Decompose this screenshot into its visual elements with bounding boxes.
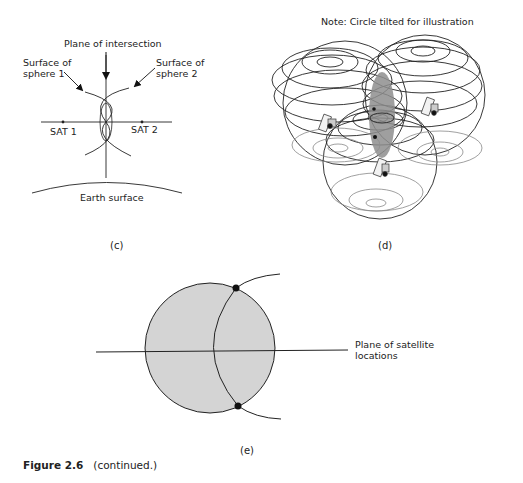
plane-of-satellite-locations-label: Plane of satellite locations: [355, 339, 434, 361]
figure-caption: Figure 2.6(continued.): [23, 459, 157, 471]
plane-label-line2: locations: [355, 350, 434, 361]
caption-text: (continued.): [93, 459, 157, 471]
plane-label-line1: Plane of satellite: [355, 339, 434, 350]
panel-e-drawing: [0, 0, 523, 483]
figure-number: Figure 2.6: [23, 459, 83, 471]
panel-e-label: (e): [240, 445, 254, 456]
